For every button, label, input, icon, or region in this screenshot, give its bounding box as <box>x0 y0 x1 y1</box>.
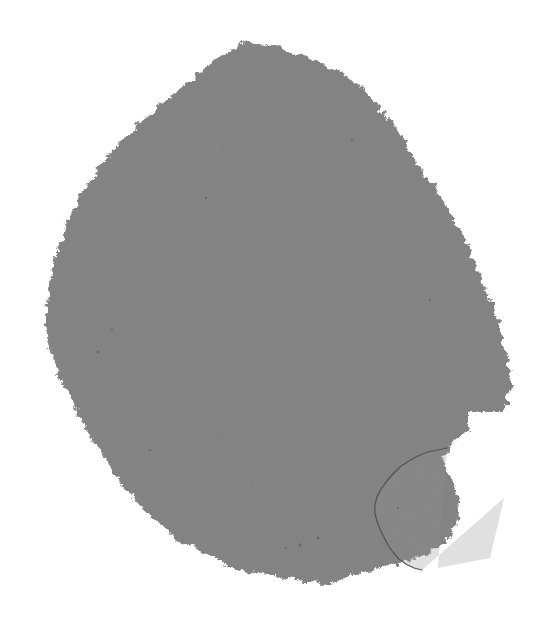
paper-speck <box>149 449 151 451</box>
paper-speck <box>397 507 399 509</box>
paper-speck <box>111 329 113 331</box>
paper-speck <box>429 299 431 301</box>
paper-speck <box>205 197 207 199</box>
paper-speck <box>285 547 287 549</box>
paper-image-canvas <box>0 0 557 624</box>
torn-paper-scene: Torn gray paper fragment on white backgr… <box>0 0 557 624</box>
paper-speck <box>351 139 353 141</box>
paper-speck <box>298 543 301 546</box>
paper-speck <box>97 351 100 354</box>
paper-speck <box>317 537 319 539</box>
